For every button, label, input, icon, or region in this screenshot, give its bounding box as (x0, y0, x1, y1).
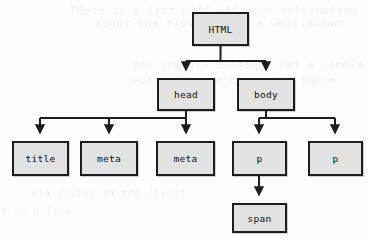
edge-layer (0, 0, 371, 239)
node-title[interactable]: title (12, 141, 69, 176)
edge-head-to-children (40, 111, 186, 133)
node-body[interactable]: body (237, 78, 295, 111)
node-head[interactable]: head (157, 78, 215, 111)
node-meta-1[interactable]: meta (80, 141, 138, 176)
node-meta-2[interactable]: meta (156, 141, 215, 176)
page-bleedthrough-artifact: noitamrofni ruoy lla htiw tsil a si ereh… (0, 0, 371, 239)
node-html[interactable]: HTML (192, 12, 249, 46)
node-p-1[interactable]: p (232, 141, 287, 176)
node-p-2[interactable]: p (308, 141, 363, 176)
node-span[interactable]: span (232, 203, 287, 233)
dom-tree-diagram: noitamrofni ruoy lla htiw tsil a si ereh… (0, 0, 371, 239)
edge-html-to-children (186, 46, 266, 70)
edge-body-to-children (259, 111, 335, 133)
